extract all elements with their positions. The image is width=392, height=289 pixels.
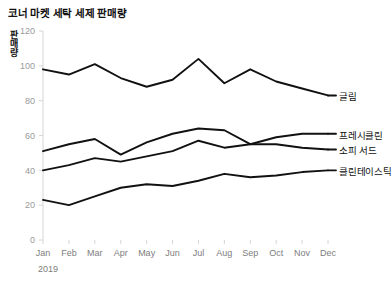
svg-text:40: 40 (25, 166, 35, 176)
svg-text:Apr: Apr (114, 248, 128, 258)
svg-text:Jul: Jul (193, 248, 205, 258)
x-axis-caption: 2019 (38, 264, 58, 274)
series-label-4: 클린테이스틱 (339, 164, 392, 178)
plot-area: 020406080100120JanFebMarAprMayJunJulAugS… (0, 0, 392, 289)
series-label-2: 프레시클린 (339, 128, 383, 142)
svg-text:Jan: Jan (36, 248, 51, 258)
svg-text:Feb: Feb (61, 248, 77, 258)
svg-text:20: 20 (25, 200, 35, 210)
svg-text:0: 0 (30, 235, 35, 245)
svg-text:Nov: Nov (294, 248, 311, 258)
svg-text:Mar: Mar (87, 248, 103, 258)
svg-text:Aug: Aug (216, 248, 232, 258)
svg-text:80: 80 (25, 96, 35, 106)
svg-text:Jun: Jun (165, 248, 180, 258)
svg-text:120: 120 (20, 26, 35, 36)
sales-line-chart: 코너 마켓 세탁 세제 판매량 판매량 020406080100120JanFe… (0, 0, 392, 289)
series-label-3: 소피 서드 (339, 143, 377, 157)
svg-text:Dec: Dec (320, 248, 337, 258)
svg-text:100: 100 (20, 61, 35, 71)
series-label-1: 글림 (339, 89, 357, 103)
svg-text:Sep: Sep (242, 248, 258, 258)
svg-text:Oct: Oct (269, 248, 284, 258)
svg-text:May: May (138, 248, 156, 258)
svg-text:60: 60 (25, 131, 35, 141)
